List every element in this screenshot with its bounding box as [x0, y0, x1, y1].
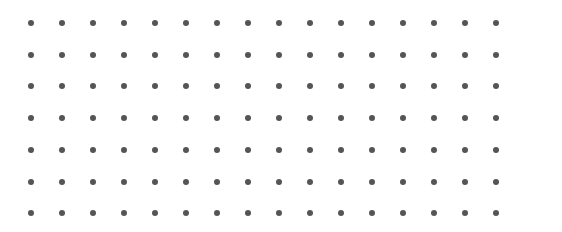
grid-dot [152, 210, 158, 216]
grid-dot [462, 115, 468, 121]
grid-dot [338, 179, 344, 185]
grid-dot [431, 210, 437, 216]
grid-dot [59, 20, 65, 26]
grid-dot [400, 147, 406, 153]
grid-dot [400, 83, 406, 89]
grid-dot [59, 147, 65, 153]
grid-dot [214, 179, 220, 185]
grid-dot [307, 210, 313, 216]
grid-dot [431, 20, 437, 26]
grid-dot [400, 115, 406, 121]
grid-dot [276, 83, 282, 89]
grid-dot [214, 147, 220, 153]
grid-dot [462, 83, 468, 89]
grid-dot [307, 147, 313, 153]
grid-dot [276, 20, 282, 26]
grid-dot [276, 147, 282, 153]
grid-dot [214, 210, 220, 216]
grid-dot [369, 179, 375, 185]
grid-dot [493, 83, 499, 89]
grid-dot [59, 179, 65, 185]
grid-dot [369, 83, 375, 89]
grid-dot [493, 147, 499, 153]
grid-dot [183, 210, 189, 216]
grid-dot [462, 179, 468, 185]
grid-dot [183, 20, 189, 26]
grid-dot [245, 83, 251, 89]
grid-dot [245, 20, 251, 26]
grid-dot [183, 83, 189, 89]
grid-dot [493, 179, 499, 185]
grid-dot [338, 20, 344, 26]
grid-dot [183, 179, 189, 185]
grid-dot [28, 147, 34, 153]
grid-dot [90, 179, 96, 185]
grid-dot [400, 52, 406, 58]
grid-dot [59, 115, 65, 121]
grid-dot [214, 20, 220, 26]
grid-dot [28, 52, 34, 58]
dot-grid [0, 0, 562, 232]
grid-dot [152, 179, 158, 185]
grid-dot [462, 52, 468, 58]
grid-dot [307, 83, 313, 89]
grid-dot [214, 83, 220, 89]
grid-dot [245, 179, 251, 185]
grid-dot [183, 52, 189, 58]
grid-dot [276, 210, 282, 216]
grid-dot [307, 52, 313, 58]
grid-dot [59, 52, 65, 58]
grid-dot [90, 20, 96, 26]
grid-dot [431, 115, 437, 121]
grid-dot [214, 115, 220, 121]
grid-dot [245, 52, 251, 58]
grid-dot [462, 20, 468, 26]
grid-dot [462, 210, 468, 216]
grid-dot [245, 147, 251, 153]
grid-dot [121, 83, 127, 89]
grid-dot [307, 179, 313, 185]
grid-dot [152, 20, 158, 26]
grid-dot [369, 147, 375, 153]
grid-dot [338, 52, 344, 58]
grid-dot [90, 83, 96, 89]
grid-dot [28, 179, 34, 185]
grid-dot [121, 147, 127, 153]
grid-dot [183, 147, 189, 153]
grid-dot [28, 115, 34, 121]
grid-dot [369, 20, 375, 26]
grid-dot [245, 115, 251, 121]
grid-dot [121, 115, 127, 121]
grid-dot [59, 210, 65, 216]
grid-dot [493, 52, 499, 58]
grid-dot [152, 83, 158, 89]
grid-dot [90, 115, 96, 121]
grid-dot [121, 20, 127, 26]
grid-dot [28, 83, 34, 89]
grid-dot [59, 83, 65, 89]
grid-dot [400, 20, 406, 26]
grid-dot [28, 210, 34, 216]
grid-dot [369, 115, 375, 121]
grid-dot [90, 52, 96, 58]
grid-dot [462, 147, 468, 153]
grid-dot [90, 210, 96, 216]
grid-dot [493, 210, 499, 216]
grid-dot [431, 52, 437, 58]
grid-dot [121, 52, 127, 58]
grid-dot [338, 83, 344, 89]
grid-dot [121, 210, 127, 216]
grid-dot [493, 20, 499, 26]
grid-dot [214, 52, 220, 58]
grid-dot [276, 52, 282, 58]
grid-dot [183, 115, 189, 121]
grid-dot [152, 147, 158, 153]
grid-dot [369, 210, 375, 216]
grid-dot [90, 147, 96, 153]
grid-dot [28, 20, 34, 26]
grid-dot [369, 52, 375, 58]
grid-dot [276, 179, 282, 185]
grid-dot [338, 210, 344, 216]
grid-dot [431, 83, 437, 89]
grid-dot [400, 179, 406, 185]
